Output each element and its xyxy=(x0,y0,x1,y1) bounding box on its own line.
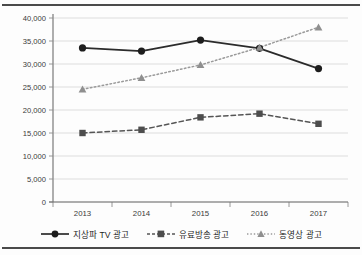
legend-item-video-ad: 동영상 광고 xyxy=(246,228,321,240)
data-point xyxy=(197,36,204,43)
data-point xyxy=(315,23,323,30)
y-tick-label: 30,000 xyxy=(23,60,46,69)
legend-marker-square-icon xyxy=(146,228,176,240)
x-tick-label: 2015 xyxy=(192,209,210,216)
x-tick-label: 2016 xyxy=(251,209,268,216)
y-tick-label: 15,000 xyxy=(23,129,46,138)
y-tick-label: 5,000 xyxy=(27,175,46,184)
x-tick-label: 2014 xyxy=(133,209,151,216)
x-tick-labels: 20132014201520162017 xyxy=(74,209,327,216)
data-point xyxy=(256,110,262,116)
data-point xyxy=(138,127,144,133)
legend-label-paid-broadcast: 유료방송 광고 xyxy=(179,228,229,240)
data-point xyxy=(79,130,85,136)
y-tick-label: 25,000 xyxy=(23,83,46,92)
x-axis-ticks xyxy=(53,202,348,207)
x-tick-label: 2017 xyxy=(310,209,327,216)
chart-legend: 지상파 TV 광고 유료방송 광고 동영상 광고 xyxy=(0,224,362,244)
legend-label-terrestrial-tv: 지상파 TV 광고 xyxy=(73,228,129,240)
data-point xyxy=(197,61,205,68)
y-tick-label: 35,000 xyxy=(23,37,46,46)
data-point xyxy=(138,74,146,81)
data-point xyxy=(315,65,322,72)
legend-marker-triangle-icon xyxy=(246,228,276,240)
data-point xyxy=(138,48,145,55)
data-point xyxy=(79,44,86,51)
y-tick-label: 20,000 xyxy=(23,106,46,115)
line-chart-svg: 05,00010,00015,00020,00025,00030,00035,0… xyxy=(0,6,362,216)
legend-item-terrestrial-tv: 지상파 TV 광고 xyxy=(40,228,129,240)
data-point xyxy=(315,121,321,127)
bottom-rule xyxy=(2,247,360,249)
legend-item-paid-broadcast: 유료방송 광고 xyxy=(146,228,229,240)
series-markers xyxy=(79,23,323,136)
y-tick-label: 40,000 xyxy=(23,14,46,23)
legend-marker-circle-icon xyxy=(40,228,70,240)
y-tick-labels: 05,00010,00015,00020,00025,00030,00035,0… xyxy=(23,14,46,207)
plot-area: 05,00010,00015,00020,00025,00030,00035,0… xyxy=(0,6,362,216)
gridlines xyxy=(53,18,348,202)
chart-figure: 05,00010,00015,00020,00025,00030,00035,0… xyxy=(0,0,362,255)
legend-label-video-ad: 동영상 광고 xyxy=(279,228,321,240)
data-point xyxy=(197,114,203,120)
x-tick-label: 2013 xyxy=(74,209,91,216)
y-tick-label: 10,000 xyxy=(23,152,46,161)
y-tick-label: 0 xyxy=(42,198,46,207)
